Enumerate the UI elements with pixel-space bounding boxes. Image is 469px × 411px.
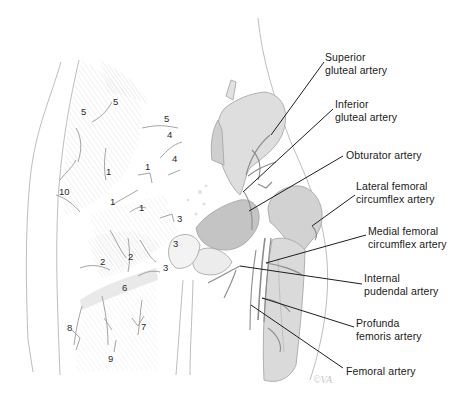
anastomosis-number: 8 <box>67 323 72 333</box>
anastomosis-number: 1 <box>145 162 150 172</box>
anastomosis-number: 5 <box>164 114 169 124</box>
anastomosis-number: 4 <box>167 130 172 140</box>
label-internal-pudendal: Internalpudendal artery <box>364 272 438 297</box>
anastomosis-number: 7 <box>141 322 146 332</box>
label-line1: Internal <box>364 272 438 285</box>
label-line2: circumflex artery <box>356 193 435 206</box>
label-line1: Femoral artery <box>346 365 416 378</box>
anastomosis-number: 10 <box>59 187 70 197</box>
label-superior-gluteal: Superiorgluteal artery <box>325 51 387 76</box>
label-line1: Obturator artery <box>346 149 422 162</box>
label-line1: Medial femoral <box>368 225 447 238</box>
label-line2: pudendal artery <box>364 285 438 298</box>
pelvis-bone <box>169 80 286 275</box>
label-femoral: Femoral artery <box>346 365 416 378</box>
anastomosis-number: 2 <box>128 252 133 262</box>
label-line1: Lateral femoral <box>356 180 435 193</box>
label-line2: femoris artery <box>356 330 422 343</box>
anastomosis-number: 3 <box>177 214 182 224</box>
anastomosis-number: 5 <box>81 107 86 117</box>
bone-texture <box>187 185 208 216</box>
label-inferior-gluteal: Inferiorgluteal artery <box>335 98 397 123</box>
anastomosis-number: 2 <box>100 257 105 267</box>
label-profunda-femoris: Profundafemoris artery <box>356 317 422 342</box>
anatomy-figure: Superiorgluteal arteryInferiorgluteal ar… <box>0 0 469 411</box>
label-line1: Profunda <box>356 317 422 330</box>
hip-arteries-illustration <box>0 0 469 411</box>
label-lateral-femoral-circumflex: Lateral femoralcircumflex artery <box>356 180 435 205</box>
label-line1: Superior <box>325 51 387 64</box>
label-line1: Inferior <box>335 98 397 111</box>
anastomosis-number: 3 <box>173 239 178 249</box>
anastomosis-number: 1 <box>110 197 115 207</box>
artist-signature: ©VA <box>313 374 332 385</box>
label-obturator: Obturator artery <box>346 149 422 162</box>
label-line2: gluteal artery <box>335 111 397 124</box>
anastomosis-number: 5 <box>113 97 118 107</box>
gluteal-muscle-shading <box>64 60 178 310</box>
anastomosis-number: 3 <box>163 263 168 273</box>
anastomosis-number: 1 <box>139 203 144 213</box>
anastomosis-number: 1 <box>106 167 111 177</box>
label-line2: circumflex artery <box>368 238 447 251</box>
anastomosis-number: 4 <box>172 154 177 164</box>
anastomosis-number: 9 <box>108 354 113 364</box>
anastomosis-number: 6 <box>122 283 127 293</box>
label-line2: gluteal artery <box>325 64 387 77</box>
label-medial-femoral-circumflex: Medial femoralcircumflex artery <box>368 225 447 250</box>
